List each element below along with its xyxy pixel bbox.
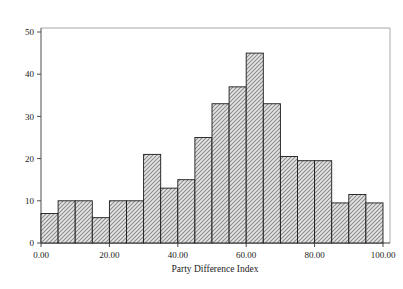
x-tick-label: 0.00 xyxy=(33,250,49,260)
y-axis-ticks: 01020304050 xyxy=(25,27,41,248)
x-tick-label: 40.00 xyxy=(168,250,189,260)
histogram-bar xyxy=(229,87,246,243)
histogram-bar xyxy=(58,201,75,243)
y-tick-label: 20 xyxy=(25,154,35,164)
histogram-bar xyxy=(161,188,178,243)
histogram-bar xyxy=(92,218,109,243)
histogram-bar xyxy=(349,194,366,243)
histogram-bar xyxy=(75,201,92,243)
x-tick-label: 80.00 xyxy=(304,250,325,260)
y-tick-label: 0 xyxy=(30,238,35,248)
x-tick-label: 20.00 xyxy=(99,250,120,260)
histogram-bar xyxy=(246,53,263,243)
histogram-chart: 01020304050 0.0020.0040.0060.0080.00100.… xyxy=(0,0,403,289)
x-axis-ticks: 0.0020.0040.0060.0080.00100.00 xyxy=(33,243,396,260)
histogram-bar xyxy=(41,213,58,243)
histogram-bar xyxy=(109,201,126,243)
histogram-bar xyxy=(212,104,229,243)
histogram-bar xyxy=(144,154,161,243)
histogram-bar xyxy=(263,104,280,243)
x-tick-label: 100.00 xyxy=(371,250,396,260)
histogram-bar xyxy=(315,161,332,243)
bars-group xyxy=(41,53,383,243)
y-tick-label: 30 xyxy=(25,112,35,122)
chart-svg: 01020304050 0.0020.0040.0060.0080.00100.… xyxy=(0,0,403,289)
histogram-bar xyxy=(280,156,297,243)
histogram-bar xyxy=(195,138,212,244)
histogram-bar xyxy=(332,203,349,243)
y-tick-label: 40 xyxy=(25,69,35,79)
y-tick-label: 10 xyxy=(25,196,35,206)
histogram-bar xyxy=(298,161,315,243)
x-axis-title: Party Difference Index xyxy=(172,264,259,274)
y-tick-label: 50 xyxy=(25,27,35,37)
histogram-bar xyxy=(127,201,144,243)
histogram-bar xyxy=(178,180,195,243)
histogram-bar xyxy=(366,203,383,243)
x-tick-label: 60.00 xyxy=(236,250,257,260)
